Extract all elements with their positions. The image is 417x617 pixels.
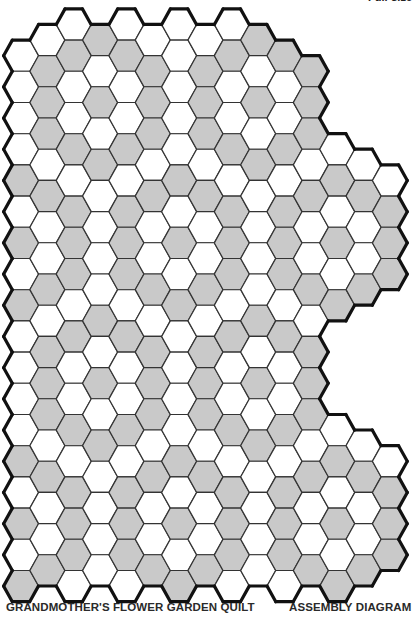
- quilt-assembly-diagram: [0, 0, 417, 617]
- full-size-label: Full-size: [368, 0, 412, 3]
- hexagon-grid: [4, 9, 408, 602]
- quilt-title: GRANDMOTHER'S FLOWER GARDEN QUILT: [6, 601, 255, 613]
- diagram-subtitle: ASSEMBLY DIAGRAM: [289, 601, 411, 613]
